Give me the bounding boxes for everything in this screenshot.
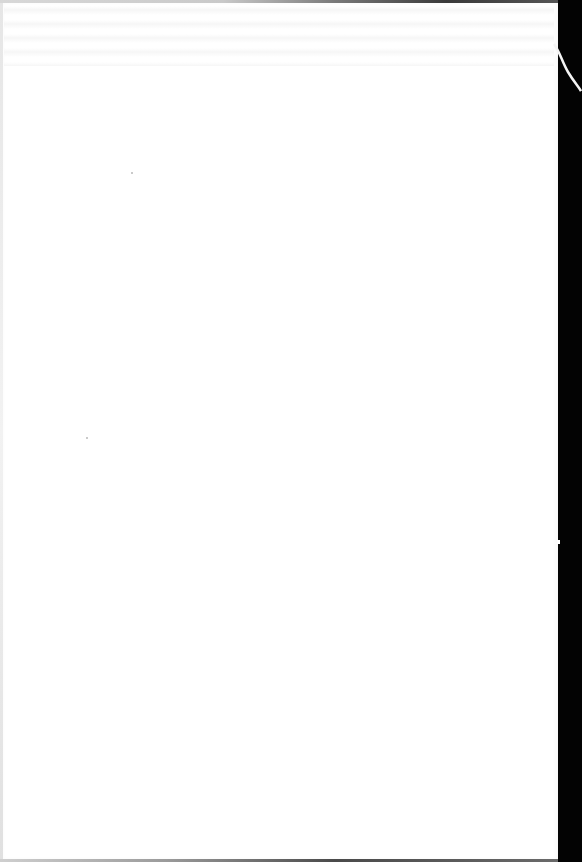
scanner-background [558,0,582,862]
blank-page [0,0,558,862]
page-edge-curl [552,42,582,92]
dust-speck [131,172,133,174]
edge-nick [557,540,560,544]
scanned-image [0,0,582,862]
dust-speck [86,437,88,439]
page-left-edge [0,0,3,862]
bleed-through-text-shadow [4,6,554,66]
page-top-edge [0,0,558,3]
